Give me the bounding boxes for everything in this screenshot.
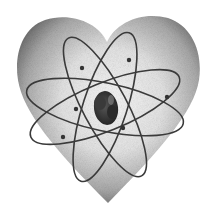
electron-dot xyxy=(61,135,65,139)
atomic-heart-image xyxy=(0,0,216,216)
electron-dot xyxy=(121,126,125,130)
electron-dot xyxy=(165,95,169,99)
electron-dot xyxy=(74,107,78,111)
electron-dot xyxy=(127,58,131,62)
electron-dot xyxy=(80,66,84,70)
